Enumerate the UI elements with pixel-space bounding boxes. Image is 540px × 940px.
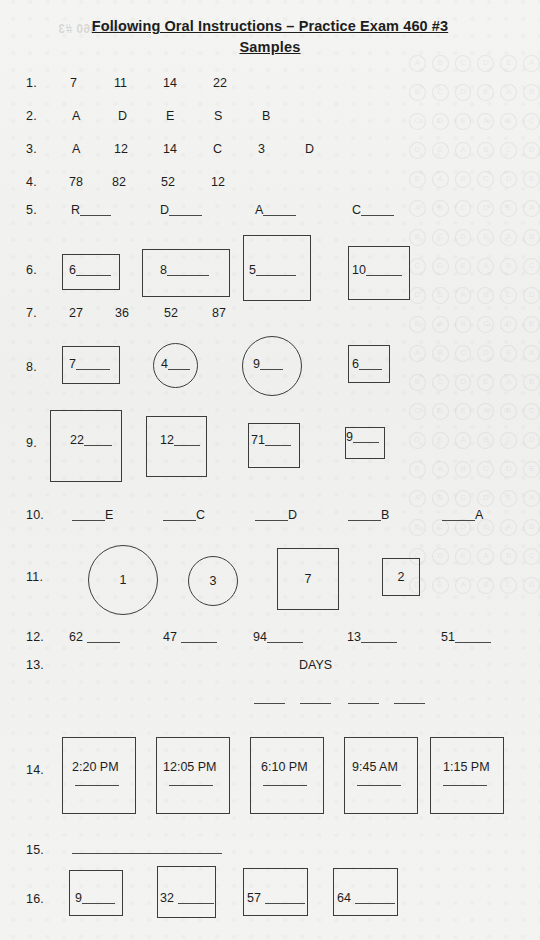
row-10-label-3: D <box>288 508 297 522</box>
answer-blank[interactable] <box>256 275 296 276</box>
row-5-item-1[interactable]: R <box>71 203 111 217</box>
answer-blank[interactable] <box>178 903 214 904</box>
row-14-box-2-value: 12:05 PM <box>163 760 217 774</box>
answer-blank[interactable] <box>361 215 394 216</box>
answer-blank[interactable] <box>163 520 196 521</box>
row-5-item-4[interactable]: C <box>352 203 394 217</box>
row-number: 11. <box>26 570 43 584</box>
row-number: 3. <box>26 142 37 156</box>
answer-blank[interactable] <box>75 785 119 786</box>
row-10-item-2[interactable]: C <box>163 508 205 522</box>
answer-blank[interactable] <box>169 215 202 216</box>
row-number: 8. <box>26 360 37 374</box>
answer-blank[interactable] <box>168 369 190 370</box>
row-12-item-4[interactable]: 13 <box>347 630 397 644</box>
row-13-dash-1[interactable] <box>254 703 285 704</box>
row-15-long-blank[interactable] <box>72 853 222 854</box>
answer-blank[interactable] <box>353 442 379 443</box>
row-14-box-5[interactable] <box>430 737 504 814</box>
row-10-item-5[interactable]: A <box>442 508 483 522</box>
answer-blank[interactable] <box>84 445 112 446</box>
row-14-box-4[interactable] <box>344 737 418 814</box>
row-10-item-4[interactable]: B <box>348 508 389 522</box>
row-number: 6. <box>26 263 37 277</box>
answer-blank[interactable] <box>357 785 401 786</box>
answer-blank[interactable] <box>443 785 487 786</box>
row-8-box-1-content: 7 <box>69 357 110 371</box>
row-10-label-5: A <box>475 508 483 522</box>
answer-blank[interactable] <box>255 520 288 521</box>
row-6-box-3-content: 5 <box>249 263 296 277</box>
answer-blank[interactable] <box>76 275 111 276</box>
answer-blank[interactable] <box>442 520 475 521</box>
answer-blank[interactable] <box>260 369 283 370</box>
row-11-circle-2[interactable]: 3 <box>188 556 238 606</box>
row-number: 10. <box>26 508 44 522</box>
row-12-item-1[interactable]: 62 <box>69 630 120 644</box>
answer-blank[interactable] <box>82 903 115 904</box>
row-12-item-5[interactable]: 51 <box>441 630 491 644</box>
row-5-item-3[interactable]: A <box>255 203 296 217</box>
row-4-item-2: 82 <box>112 175 126 189</box>
answer-blank[interactable] <box>359 369 382 370</box>
answer-blank[interactable] <box>361 642 397 643</box>
row-11-circle-1-value: 1 <box>89 546 157 614</box>
row-14-box-2[interactable] <box>156 737 230 814</box>
row-16-box-3-content: 57 <box>247 891 305 905</box>
row-9-box-1-content: 22 <box>70 433 112 447</box>
row-12-item-3[interactable]: 94 <box>253 630 303 644</box>
row-6-box-4-content: 10 <box>352 263 402 277</box>
answer-blank[interactable] <box>181 642 217 643</box>
page-title: Following Oral Instructions – Practice E… <box>0 16 540 58</box>
row-number: 9. <box>26 436 37 450</box>
answer-blank[interactable] <box>174 445 200 446</box>
row-5-item-2[interactable]: D <box>160 203 202 217</box>
row-14-box-3[interactable] <box>250 737 324 814</box>
answer-blank[interactable] <box>265 445 291 446</box>
answer-blank[interactable] <box>267 642 303 643</box>
answer-blank[interactable] <box>355 903 395 904</box>
answer-blank[interactable] <box>348 520 381 521</box>
answer-blank[interactable] <box>76 369 110 370</box>
row-9-box-4-value: 9 <box>346 430 353 444</box>
row-16-box-2-value: 32 <box>160 891 174 905</box>
row-6-box-1-content: 6 <box>69 263 111 277</box>
answer-blank[interactable] <box>80 215 111 216</box>
row-12-value-3: 94 <box>253 630 267 644</box>
row-13-dash-2[interactable] <box>300 703 331 704</box>
row-16-box-1-value: 9 <box>75 891 82 905</box>
row-10-label-4: B <box>381 508 389 522</box>
row-11-box-2-value: 2 <box>383 559 419 595</box>
row-11-circle-1[interactable]: 1 <box>88 545 158 615</box>
answer-blank[interactable] <box>72 520 105 521</box>
row-number: 12. <box>26 630 44 644</box>
row-4-item-3: 52 <box>161 175 175 189</box>
row-8-circle-2-content: 9 <box>253 357 283 371</box>
row-11-box-2[interactable]: 2 <box>382 558 420 596</box>
answer-blank[interactable] <box>366 275 402 276</box>
row-13-dash-3[interactable] <box>348 703 379 704</box>
row-number: 15. <box>26 843 44 857</box>
row-11-box-1[interactable]: 7 <box>277 548 339 610</box>
row-13-dash-4[interactable] <box>394 703 425 704</box>
row-12-value-2: 47 <box>163 630 177 644</box>
row-14-box-1[interactable] <box>62 737 136 814</box>
answer-blank[interactable] <box>265 903 305 904</box>
answer-blank[interactable] <box>87 642 120 643</box>
row-16-box-3-value: 57 <box>247 891 261 905</box>
row-12-item-2[interactable]: 47 <box>163 630 217 644</box>
row-16-box-4-content: 64 <box>337 891 395 905</box>
row-6-box-3-value: 5 <box>249 263 256 277</box>
row-12-value-1: 62 <box>69 630 83 644</box>
answer-blank[interactable] <box>167 275 209 276</box>
answer-blank[interactable] <box>455 642 491 643</box>
row-10-item-3[interactable]: D <box>255 508 297 522</box>
answer-blank[interactable] <box>263 785 307 786</box>
row-8-circle-2-value: 9 <box>253 357 260 371</box>
answer-blank[interactable] <box>263 215 296 216</box>
row-8-circle-1-content: 4 <box>161 357 190 371</box>
answer-blank[interactable] <box>169 785 213 786</box>
row-14-box-5-value: 1:15 PM <box>443 760 490 774</box>
worksheet: Following Oral Instructions – Practice E… <box>0 0 540 940</box>
row-10-item-1[interactable]: E <box>72 508 113 522</box>
